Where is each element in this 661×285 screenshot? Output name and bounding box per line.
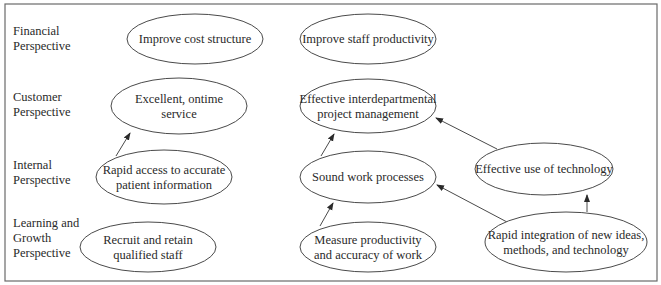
node-improve-cost-structure: Improve cost structure [127,14,263,64]
node-label: Effective use of technology [475,162,613,176]
node-label: Recruit and retainqualified staff [103,233,193,262]
node-effective-interdepartmental-pm: Effective interdepartmentalproject manag… [300,79,437,133]
perspective-label-financial: FinancialPerspective [13,24,71,53]
node-rapid-access-patient-info: Rapid access to accuratepatient informat… [96,150,232,204]
node-label: Sound work processes [312,170,424,184]
perspective-labels: FinancialPerspectiveCustomerPerspectiveI… [13,24,80,261]
node-label: Effective interdepartmentalproject manag… [300,92,437,121]
node-label: Improve cost structure [139,32,252,46]
strategy-map-diagram: Improve cost structureImprove staff prod… [0,0,661,285]
node-excellent-ontime-service: Excellent, ontimeservice [111,78,247,134]
arrow-rapid-integration-new-ideas-to-sound-work-processes [437,185,507,222]
node-recruit-retain-staff: Recruit and retainqualified staff [80,222,216,272]
node-label: Rapid integration of new ideas,methods, … [488,228,645,257]
node-effective-use-of-technology: Effective use of technology [475,143,614,195]
node-label: Improve staff productivity [302,32,434,46]
node-improve-staff-productivity: Improve staff productivity [300,14,436,64]
arrow-effective-use-of-technology-to-effective-interdepartmental-pm [436,118,497,149]
node-label: Rapid access to accuratepatient informat… [103,163,226,192]
perspective-label-internal: InternalPerspective [13,158,71,187]
arrow-sound-work-processes-to-effective-interdepartmental-pm [321,134,334,156]
node-label: Measure productivityand accuracy of work [314,233,423,262]
node-measure-productivity-accuracy: Measure productivityand accuracy of work [300,222,436,272]
node-rapid-integration-new-ideas: Rapid integration of new ideas,methods, … [485,212,647,272]
perspective-label-customer: CustomerPerspective [13,90,71,119]
node-sound-work-processes: Sound work processes [300,151,436,203]
nodes-layer: Improve cost structureImprove staff prod… [80,14,647,272]
perspective-label-learning: Learning andGrowthPerspective [13,216,80,260]
arrow-rapid-access-patient-info-to-excellent-ontime-service [116,133,130,156]
arrow-measure-productivity-accuracy-to-sound-work-processes [320,203,333,226]
